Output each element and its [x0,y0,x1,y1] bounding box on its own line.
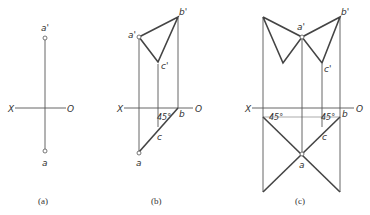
angle-label-right: 45° [321,113,335,122]
point-a-prime [300,35,304,39]
label-c-prime: c' [161,61,168,71]
caption-a: (a) [38,196,48,206]
triangle-front-view [139,17,178,62]
caption-b: (b) [151,196,162,206]
panel-b: a' b' c' a b c 45° X O (b) [116,7,202,206]
point-a [43,149,47,153]
label-x: X [244,104,252,114]
point-a [137,151,141,155]
label-a: a [299,160,305,170]
caption-c: (c) [295,196,305,206]
point-a-prime [43,36,47,40]
panel-a: a' a X O (a) [7,23,74,206]
label-a-prime: a' [297,22,305,32]
panel-c: a' b' c' a b c 45° 45° X O (c) [244,7,363,206]
label-c: c [322,132,327,142]
projection-diagram: a' a X O (a) a' b' c' a b c 45° X O (b) [0,0,370,215]
label-a-prime: a' [41,23,49,33]
label-x: X [7,104,15,114]
point-a-prime [137,35,141,39]
angle-label: 45° [157,113,171,122]
label-x: X [116,104,124,114]
angle-label-left: 45° [269,113,283,122]
label-a-prime: a' [128,30,136,40]
label-b-prime: b' [341,7,349,17]
label-b: b [179,109,185,119]
label-o: O [67,104,74,114]
point-a [300,152,304,156]
label-c-prime: c' [324,64,331,74]
label-c: c [157,132,162,142]
label-a: a [136,158,142,168]
label-b-prime: b' [179,7,187,17]
label-o: O [356,104,363,114]
label-a: a [42,158,48,168]
label-b: b [342,109,348,119]
label-o: O [195,104,202,114]
